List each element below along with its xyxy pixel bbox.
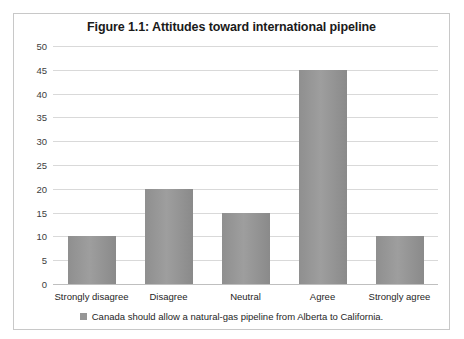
y-tick-label-0: 0 <box>42 279 47 290</box>
bar-disagree <box>145 189 193 284</box>
y-tick-label-50: 50 <box>36 41 47 52</box>
chart-frame: Figure 1.1: Attitudes toward internation… <box>13 13 450 330</box>
x-tick-label-neutral: Neutral <box>230 291 261 302</box>
x-tick-label-agree: Agree <box>310 291 335 302</box>
chart-legend: Canada should allow a natural-gas pipeli… <box>14 311 449 322</box>
plot-area: 05101520253035404550 Strongly disagreeDi… <box>53 46 438 284</box>
y-tick-label-15: 15 <box>36 207 47 218</box>
y-tick-label-45: 45 <box>36 64 47 75</box>
bar-neutral <box>222 213 270 284</box>
bar-agree <box>299 70 347 284</box>
bar-series <box>53 46 438 284</box>
x-tick-label-strongly-disagree: Strongly disagree <box>55 291 129 302</box>
y-tick-label-30: 30 <box>36 136 47 147</box>
y-tick-label-20: 20 <box>36 183 47 194</box>
x-tick-label-disagree: Disagree <box>149 291 187 302</box>
legend-swatch-icon <box>80 313 87 320</box>
y-tick-label-40: 40 <box>36 88 47 99</box>
chart-title: Figure 1.1: Attitudes toward internation… <box>14 20 449 34</box>
gridline-0 <box>53 284 438 285</box>
y-tick-label-5: 5 <box>42 255 47 266</box>
legend-label: Canada should allow a natural-gas pipeli… <box>92 311 384 322</box>
y-tick-label-25: 25 <box>36 160 47 171</box>
y-tick-label-35: 35 <box>36 112 47 123</box>
bar-strongly-agree <box>376 236 424 284</box>
bar-strongly-disagree <box>68 236 116 284</box>
y-tick-label-10: 10 <box>36 231 47 242</box>
x-tick-label-strongly-agree: Strongly agree <box>369 291 431 302</box>
